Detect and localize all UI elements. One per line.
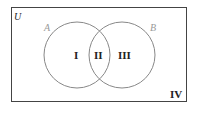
- region-i-label: I: [74, 49, 78, 61]
- region-iv-label: IV: [170, 88, 182, 100]
- venn-diagram: U A B I II III IV: [0, 0, 197, 116]
- universe-label: U: [14, 11, 22, 22]
- set-a-label: A: [43, 22, 51, 33]
- set-b-label: B: [150, 22, 156, 33]
- region-ii-label: II: [94, 49, 103, 61]
- region-iii-label: III: [118, 49, 131, 61]
